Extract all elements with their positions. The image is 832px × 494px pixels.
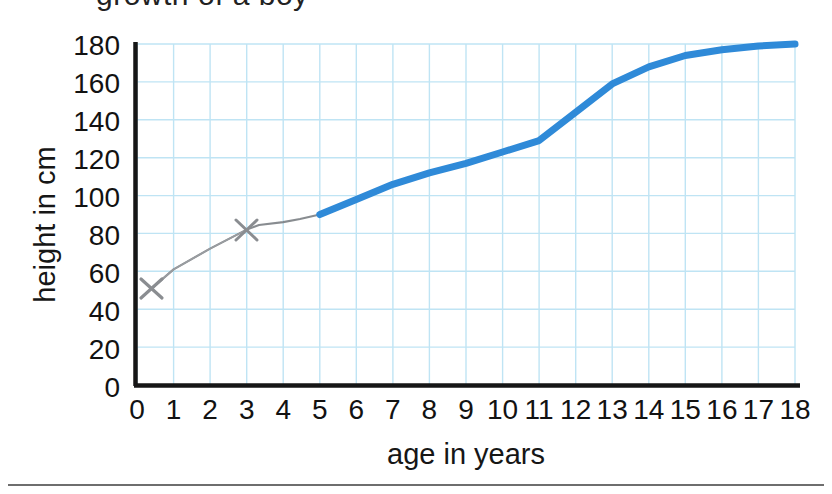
growth-chart-figure: 180 160 140 120 100 80 60 40 20 0 0 1 2 … xyxy=(0,0,832,494)
y-tick-160: 160 xyxy=(30,70,120,98)
y-tick-180: 180 xyxy=(30,32,120,60)
x-axis-title: age in years xyxy=(137,438,795,471)
vertical-gridlines xyxy=(137,44,795,385)
data-marker-x-age0 xyxy=(141,279,162,298)
x-tick-18: 18 xyxy=(773,396,817,424)
bottom-divider-rule xyxy=(8,484,824,486)
early-childhood-gray-line xyxy=(152,215,320,289)
y-tick-0: 0 xyxy=(30,374,120,402)
axis-lines xyxy=(134,42,800,386)
growth-curve-blue-line xyxy=(320,44,795,214)
y-axis-title: height in cm xyxy=(29,105,62,345)
